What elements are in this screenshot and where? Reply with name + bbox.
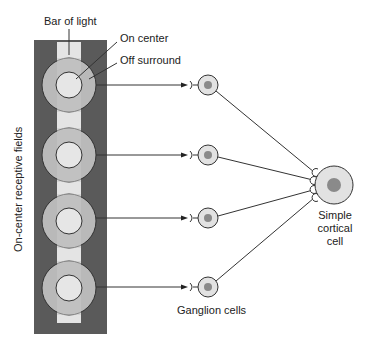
receptive-field-diagram: [0, 0, 365, 349]
connection-2: [218, 157, 313, 180]
ganglion-cells-label: Ganglion cells: [177, 304, 246, 316]
receptive-field-4: [42, 261, 96, 315]
arrow-3: [96, 214, 198, 222]
arrow-1: [96, 81, 198, 89]
connection-4: [216, 198, 314, 281]
cortical-cell-label-line3: cell: [313, 235, 357, 248]
cortical-cell-label-line1: Simple: [313, 209, 357, 222]
off-surround-label: Off surround: [120, 54, 181, 66]
receptive-fields-label: On-center receptive fields: [12, 127, 24, 252]
arrow-4: [96, 283, 198, 291]
ganglion-cell-4: [198, 277, 218, 297]
ganglion-cell-1: [198, 75, 218, 95]
cortical-cell-label-line2: cortical: [313, 222, 357, 235]
ganglion-cell-2: [198, 145, 218, 165]
connection-3: [218, 190, 313, 216]
receptive-field-3: [42, 194, 96, 248]
receptive-field-2: [42, 128, 96, 182]
cortical-cell-label: Simple cortical cell: [313, 209, 357, 248]
simple-cortical-cell: [315, 166, 353, 204]
ganglion-cell-3: [198, 208, 218, 228]
on-center-label: On center: [120, 32, 168, 44]
arrow-2: [96, 151, 198, 159]
receptive-field-1: [42, 58, 96, 112]
bar-of-light-label: Bar of light: [44, 15, 97, 27]
